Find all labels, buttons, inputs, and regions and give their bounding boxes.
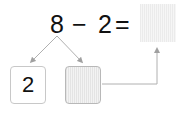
subtrahend: 2 [98, 10, 112, 39]
left-part-box: 2 [10, 66, 46, 104]
left-part-value: 2 [22, 72, 34, 98]
minus-operator: − [72, 10, 87, 39]
answer-box[interactable] [140, 4, 176, 42]
equals-sign: = [115, 10, 130, 39]
minuend: 8 [50, 10, 64, 39]
right-part-box[interactable] [65, 66, 101, 104]
